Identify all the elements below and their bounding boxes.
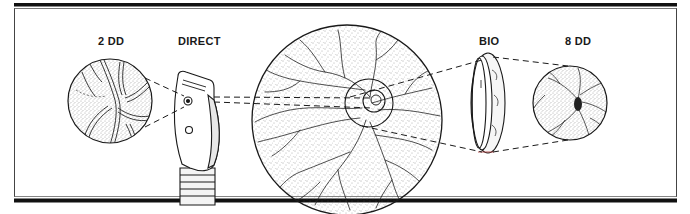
label-bio: BIO (479, 36, 499, 47)
label-direct: DIRECT (178, 36, 221, 47)
direct-field-view (68, 59, 152, 145)
label-8dd: 8 DD (565, 36, 591, 47)
fundus-illustration (252, 25, 442, 214)
direct-ophthalmoscope (175, 71, 220, 205)
label-2dd: 2 DD (98, 36, 124, 47)
bio-condensing-lens (471, 53, 505, 153)
figure-frame: 2 DD DIRECT BIO 8 DD (0, 0, 690, 214)
indirect-field-view (533, 66, 607, 140)
diagram-canvas (0, 0, 690, 214)
